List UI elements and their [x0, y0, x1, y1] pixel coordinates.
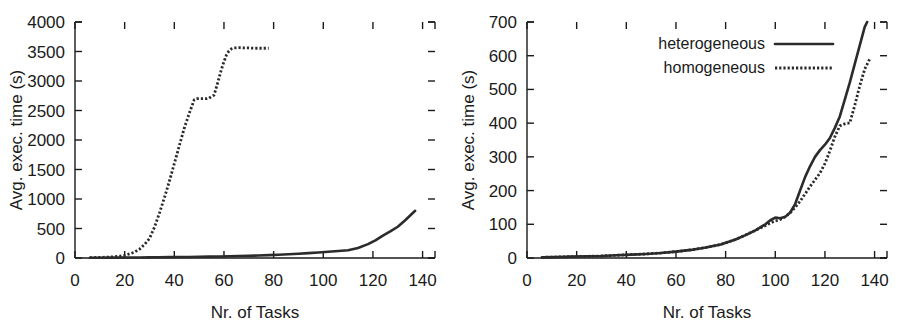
x-axis-ticks: 020406080100120140	[70, 22, 437, 290]
x-tick-label: 60	[667, 271, 686, 290]
y-tick-label: 0	[508, 249, 517, 268]
series-line-homogeneous	[90, 48, 269, 258]
x-tick-label: 120	[359, 271, 387, 290]
series-line-heterogeneous	[90, 211, 415, 258]
y-tick-label: 600	[489, 47, 517, 66]
legend-label-heterogeneous: heterogeneous	[658, 35, 765, 52]
y-tick-label: 4000	[27, 13, 65, 32]
y-axis-title: Avg. exec. time (s)	[459, 70, 478, 210]
y-tick-label: 0	[56, 249, 65, 268]
y-tick-label: 300	[489, 148, 517, 167]
x-tick-label: 80	[264, 271, 283, 290]
y-tick-label: 200	[489, 182, 517, 201]
series-line-homogeneous	[542, 59, 870, 257]
x-tick-label: 20	[115, 271, 134, 290]
x-axis-title: Nr. of Tasks	[663, 303, 752, 322]
figure-container: 0500100015002000250030003500400002040608…	[0, 0, 905, 334]
y-tick-label: 400	[489, 114, 517, 133]
y-tick-label: 700	[489, 13, 517, 32]
x-tick-label: 80	[716, 271, 735, 290]
y-tick-label: 500	[489, 80, 517, 99]
y-axis-title-group: Avg. exec. time (s)	[7, 70, 26, 210]
axis-frame	[75, 22, 435, 258]
y-axis-title-group: Avg. exec. time (s)	[459, 70, 478, 210]
x-tick-label: 0	[70, 271, 79, 290]
legend: heterogeneoushomogeneous	[658, 35, 833, 76]
x-tick-label: 20	[567, 271, 586, 290]
x-tick-label: 40	[617, 271, 636, 290]
chart-svg-0: 0500100015002000250030003500400002040608…	[0, 0, 452, 334]
legend-label-homogeneous: homogeneous	[664, 59, 765, 76]
y-tick-label: 100	[489, 215, 517, 234]
y-axis-title: Avg. exec. time (s)	[7, 70, 26, 210]
x-tick-label: 140	[860, 271, 888, 290]
x-tick-label: 120	[811, 271, 839, 290]
y-tick-label: 1500	[27, 161, 65, 180]
x-tick-label: 60	[215, 271, 234, 290]
x-tick-label: 0	[522, 271, 531, 290]
chart-svg-1: 0100200300400500600700020406080100120140…	[452, 0, 904, 334]
chart-panel-left: 0500100015002000250030003500400002040608…	[0, 0, 452, 334]
y-tick-label: 3500	[27, 43, 65, 62]
series-group	[542, 22, 870, 257]
x-tick-label: 100	[761, 271, 789, 290]
x-tick-label: 140	[408, 271, 436, 290]
y-tick-label: 1000	[27, 190, 65, 209]
y-axis-ticks: 05001000150020002500300035004000	[27, 13, 435, 268]
y-tick-label: 2000	[27, 131, 65, 150]
chart-panel-right: 0100200300400500600700020406080100120140…	[452, 0, 904, 334]
y-tick-label: 3000	[27, 72, 65, 91]
series-group	[90, 48, 415, 258]
y-tick-label: 2500	[27, 102, 65, 121]
x-tick-label: 40	[165, 271, 184, 290]
x-tick-label: 100	[309, 271, 337, 290]
series-line-heterogeneous	[542, 22, 867, 257]
y-tick-label: 500	[37, 220, 65, 239]
x-axis-title: Nr. of Tasks	[211, 303, 300, 322]
